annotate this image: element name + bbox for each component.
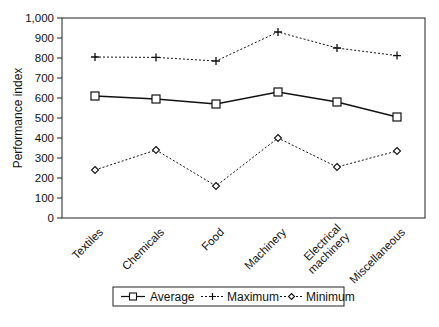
- x-category-label: Machinery: [242, 226, 288, 272]
- svg-text:Machinery: Machinery: [242, 226, 288, 272]
- square-marker-icon: [130, 293, 137, 300]
- y-tick-label: 400: [35, 132, 54, 144]
- svg-text:Textiles: Textiles: [70, 226, 106, 262]
- series-average: [91, 88, 401, 121]
- plus-marker-icon: [333, 44, 341, 52]
- square-marker-icon: [91, 92, 99, 100]
- square-marker-icon: [152, 95, 160, 103]
- plot-area: [62, 18, 425, 218]
- svg-text:Chemicals: Chemicals: [120, 226, 167, 273]
- x-category-label: Textiles: [70, 226, 106, 262]
- x-category-label: Chemicals: [120, 226, 167, 273]
- series-layer: [91, 28, 401, 190]
- x-category-label: Electricalmachinery: [297, 221, 352, 276]
- square-marker-icon: [333, 98, 341, 106]
- diamond-marker-icon: [334, 164, 341, 171]
- y-tick-label: 600: [35, 92, 54, 104]
- legend: Average Maximum Minimum: [113, 287, 355, 306]
- x-category-label: Miscellaneous: [347, 226, 407, 286]
- line-chart: Performance index 0100200300400500600700…: [0, 0, 439, 327]
- y-tick-label: 300: [35, 152, 54, 164]
- legend-label-minimum: Minimum: [306, 290, 355, 304]
- diamond-marker-icon: [92, 167, 99, 174]
- y-tick-label: 200: [35, 172, 54, 184]
- legend-label-maximum: Maximum: [227, 290, 279, 304]
- plus-marker-icon: [91, 53, 99, 61]
- y-tick-label: 1,000: [25, 12, 54, 24]
- square-marker-icon: [212, 100, 220, 108]
- y-tick-label: 100: [35, 192, 54, 204]
- square-marker-icon: [393, 113, 401, 121]
- series-minimum: [92, 135, 401, 190]
- x-axis-categories: TextilesChemicalsFoodMachineryElectrical…: [70, 221, 408, 285]
- y-tick-label: 0: [48, 212, 54, 224]
- y-tick-label: 800: [35, 52, 54, 64]
- y-tick-label: 900: [35, 32, 54, 44]
- x-category-label: Food: [199, 226, 226, 253]
- plus-marker-icon: [152, 53, 160, 61]
- svg-text:Miscellaneous: Miscellaneous: [347, 226, 407, 286]
- diamond-marker-icon: [153, 147, 160, 154]
- y-tick-label: 700: [35, 72, 54, 84]
- svg-text:Food: Food: [199, 226, 226, 253]
- square-marker-icon: [274, 88, 282, 96]
- y-axis-ticks: 01002003004005006007008009001,000: [25, 12, 62, 224]
- series-maximum: [91, 28, 401, 65]
- diamond-marker-icon: [394, 148, 401, 155]
- plus-marker-icon: [393, 52, 401, 60]
- legend-label-average: Average: [150, 290, 195, 304]
- y-tick-label: 500: [35, 112, 54, 124]
- plus-marker-icon: [274, 28, 282, 36]
- plus-marker-icon: [212, 57, 220, 65]
- y-axis-label: Performance index: [11, 68, 25, 169]
- y-axis-title: Performance index: [11, 68, 25, 169]
